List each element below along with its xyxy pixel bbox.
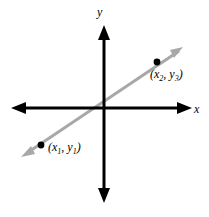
y-axis-label: y [97,6,102,18]
data-point-2-marker [154,59,161,66]
data-point-1-label: (x1, y1) [48,141,81,156]
x-axis-arrow-left [11,102,26,114]
point-1-close-paren: ) [77,140,81,154]
point-2-close-paren: ) [179,67,183,81]
point-2-comma: , [163,67,166,81]
y-axis-group [98,25,110,203]
point-1-comma: , [61,140,64,154]
data-point-2-label: (x2, y3) [150,68,183,83]
x-axis-arrow-right [177,102,192,114]
y-axis-arrow-up [98,25,110,40]
data-point-1-marker [38,142,45,149]
x-axis-label: x [194,103,199,115]
y-axis-arrow-down [98,188,110,203]
graph-canvas [0,0,209,217]
coordinate-plane-figure: y x (x2, y3) (x1, y1) [0,0,209,217]
